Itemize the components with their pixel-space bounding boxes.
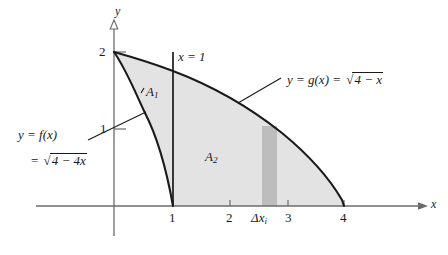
x-tick-label-4: 4 bbox=[340, 211, 347, 224]
region-a1-subscript: 1 bbox=[154, 90, 159, 100]
x-tick-label-1: 1 bbox=[169, 211, 176, 224]
curve-f-equation-text: y = f(x) bbox=[18, 127, 57, 142]
curve-f-label-line2: = √4 − 4x bbox=[31, 153, 87, 167]
region-a2-label: A2 bbox=[205, 150, 217, 165]
curve-f-equals-sign: = bbox=[31, 153, 38, 168]
figure-graphics bbox=[0, 0, 448, 255]
x-tick-label-3: 3 bbox=[285, 211, 292, 224]
x-axis-arrow bbox=[418, 202, 428, 210]
riemann-strip-label: Δxi bbox=[251, 211, 267, 226]
curve-f-radicand: 4 − 4x bbox=[50, 153, 87, 167]
leader-line-f-label bbox=[88, 112, 146, 140]
region-a2-subscript: 2 bbox=[213, 155, 218, 165]
curve-g-equation-text: y = g(x) = bbox=[287, 72, 341, 87]
x-axis-label: x bbox=[431, 198, 436, 210]
region-a2-letter: A bbox=[205, 149, 213, 164]
figure-canvas: y x 2 1 1 2 3 4 x = 1 A1 A2 Δxi y = f(x)… bbox=[0, 0, 448, 255]
curve-g-label: y = g(x) = √4 − x bbox=[287, 72, 383, 86]
curve-g-radicand: 4 − x bbox=[352, 72, 383, 86]
riemann-strip-delta: Δx bbox=[251, 210, 264, 225]
curve-f-radical: √4 − 4x bbox=[42, 153, 87, 167]
region-a1-label: A1 bbox=[146, 85, 158, 100]
leader-line-g-label bbox=[238, 78, 281, 103]
curve-g-radical: √4 − x bbox=[344, 72, 383, 86]
region-a1-letter: A bbox=[146, 84, 154, 99]
y-axis-arrow bbox=[110, 20, 118, 29]
vertical-line-label: x = 1 bbox=[178, 50, 206, 63]
curve-f-label-line1: y = f(x) bbox=[18, 128, 57, 141]
riemann-strip bbox=[262, 126, 277, 206]
y-axis-label: y bbox=[115, 5, 120, 17]
y-tick-label-1: 1 bbox=[100, 122, 107, 135]
y-tick-label-2: 2 bbox=[99, 45, 106, 58]
x-tick-label-2: 2 bbox=[226, 211, 233, 224]
riemann-strip-subscript: i bbox=[264, 216, 267, 226]
